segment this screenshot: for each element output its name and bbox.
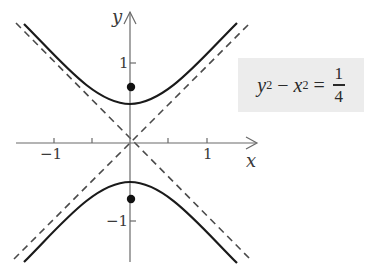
focus-upper-icon [127, 83, 135, 91]
eq-denominator: 4 [334, 88, 343, 105]
eq-equals: = [313, 74, 324, 97]
eq-numerator: 1 [334, 65, 343, 82]
eq-fraction: 1 4 [333, 65, 345, 104]
y-tick-label-1: 1 [119, 56, 129, 71]
eq-x-exponent: 2 [302, 78, 308, 93]
y-tick-label-neg1: −1 [106, 214, 128, 229]
y-axis-label: y [112, 8, 122, 26]
plot-canvas [0, 0, 372, 276]
eq-y-exponent: 2 [266, 78, 272, 93]
x-tick-label-1: 1 [203, 147, 213, 162]
asymptotes [14, 23, 250, 259]
eq-minus: − [277, 74, 288, 97]
hyperbola-diagram: y x −1 1 1 −1 y2 − x2 = 1 4 [0, 0, 372, 276]
focus-lower-icon [127, 195, 135, 203]
eq-fraction-bar [333, 84, 345, 85]
equation-box: y2 − x2 = 1 4 [238, 58, 364, 112]
eq-x-var: x [294, 74, 303, 97]
x-tick-label-neg1: −1 [40, 147, 62, 162]
asymptote-y-equals-neg-x [16, 23, 250, 259]
eq-y-var: y [257, 74, 266, 97]
x-axis-label: x [246, 152, 256, 170]
